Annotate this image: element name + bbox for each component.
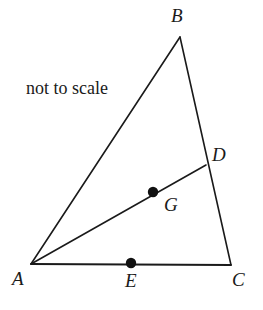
point-label-d: D	[212, 145, 226, 164]
segment-AD	[31, 165, 206, 264]
not-to-scale-note: not to scale	[26, 79, 108, 97]
vertex-label-b: B	[171, 6, 183, 25]
point-label-e: E	[125, 271, 137, 290]
vertex-label-a: A	[12, 269, 24, 288]
geometry-diagram: B D G A E C not to scale	[0, 0, 263, 310]
segment-AB	[31, 37, 180, 264]
vertex-label-c: C	[232, 270, 245, 289]
point-label-g: G	[164, 195, 178, 214]
point-marker-E	[126, 258, 136, 268]
triangle-outline	[31, 37, 231, 265]
point-marker-G	[148, 187, 158, 197]
